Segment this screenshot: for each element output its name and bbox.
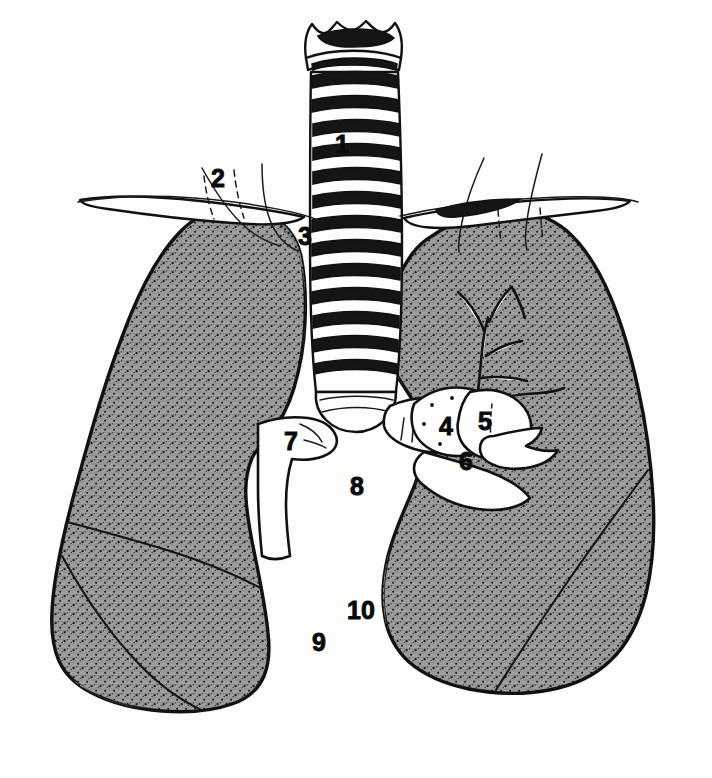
label-8: 8 xyxy=(350,472,364,500)
larynx xyxy=(305,21,402,70)
label-1: 1 xyxy=(335,130,349,158)
label-2: 2 xyxy=(211,164,225,192)
trachea xyxy=(305,21,402,432)
label-6: 6 xyxy=(459,447,473,475)
cricoid-shadow xyxy=(312,58,397,70)
label-10: 10 xyxy=(347,596,375,624)
label-7: 7 xyxy=(284,427,298,455)
anatomy-illustration: 1 2 3 4 5 6 7 8 9 10 xyxy=(0,0,712,778)
label-9: 9 xyxy=(312,628,326,656)
label-4: 4 xyxy=(439,412,453,440)
laryngeal-inlet xyxy=(318,29,394,47)
label-5: 5 xyxy=(478,407,492,435)
lung-anatomy-figure: 1 2 3 4 5 6 7 8 9 10 xyxy=(0,0,712,778)
label-3: 3 xyxy=(298,222,312,250)
